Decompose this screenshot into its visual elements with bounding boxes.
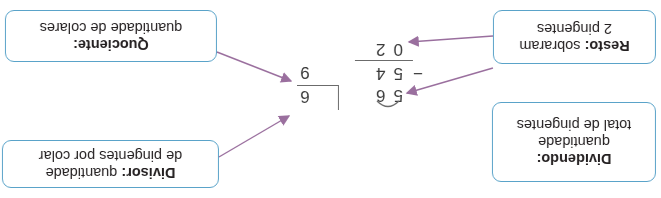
quotient-title: Quociente: [73,37,149,53]
divisor-arrow [219,116,289,157]
divisor-desc-2: de pingentes por colar [13,147,208,164]
subtraction-line [355,60,413,61]
subtrahend-digits: 54 [391,64,403,82]
remainder-digits: 02 [391,40,403,58]
divisor-digit: 6 [299,87,311,105]
remainder-label-box: Resto: sobraram 2 pingentes [493,10,656,64]
dividend-desc-1: quantidade [503,134,645,151]
quotient-arrow [217,52,291,81]
remainder-arrow [409,36,493,42]
remainder-desc-2: 2 pingentes [504,20,645,37]
digit-group-arc [375,100,401,112]
divisor-label-box: Divisor: quantidade de pingentes por col… [2,140,219,188]
quotient-label-box: Quociente: quantidade de colares [5,10,217,62]
quotient-digit: 9 [299,63,311,81]
remainder-title: Resto: [585,38,630,54]
minus-sign: − [411,64,425,82]
dividend-label-box: Dividendo: quantidade total de pingentes [492,102,656,182]
divisor-desc-1: quantidade [46,165,118,181]
division-bracket-horizontal [297,85,339,86]
dividend-desc-2: total de pingentes [503,117,645,134]
quotient-desc: quantidade de colares [16,19,206,36]
dividend-title: Dividendo: [537,152,612,168]
remainder-desc-1: sobraram [519,38,580,54]
division-diagram: Dividendo: quantidade total de pingentes… [0,0,661,198]
divisor-title: Divisor: [121,165,175,181]
division-bracket-vertical [338,85,339,110]
